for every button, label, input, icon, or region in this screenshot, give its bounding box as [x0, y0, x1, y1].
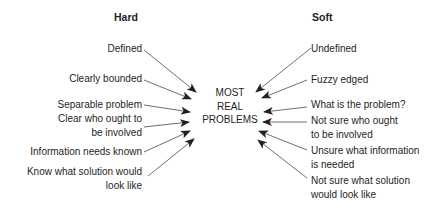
hard-item-know-solution: Know what solution would look like: [27, 165, 142, 192]
arrow-unsure-information: [259, 131, 307, 150]
hard-item-information-known: Information needs known: [30, 145, 142, 159]
arrow-clearly-bounded: [144, 80, 191, 99]
soft-heading: Soft: [312, 11, 332, 23]
center-label: MOST REAL PROBLEMS: [190, 86, 270, 127]
soft-item-what-problem: What is the problem?: [311, 98, 406, 112]
center-line-1: MOST: [190, 86, 270, 100]
hard-heading: Hard: [114, 11, 138, 23]
hard-item-clearly-bounded: Clearly bounded: [69, 72, 142, 86]
soft-item-not-sure-who: Not sure who ought to be involved: [311, 114, 398, 141]
hard-item-separable-problem: Separable problem: [58, 98, 143, 112]
arrow-clear-who: [144, 122, 189, 127]
hard-item-defined: Defined: [108, 42, 142, 56]
arrow-not-sure-solution: [258, 140, 307, 178]
arrow-what-problem: [264, 107, 307, 112]
hard-item-clear-who: Clear who ought to be involved: [58, 112, 142, 139]
soft-item-fuzzy-edged: Fuzzy edged: [311, 73, 368, 87]
arrow-information-known: [144, 131, 190, 152]
soft-item-not-sure-solution: Not sure what solution would look like: [311, 174, 410, 201]
arrow-defined: [144, 50, 196, 92]
center-line-2: REAL: [190, 100, 270, 114]
arrow-know-solution: [148, 139, 194, 176]
arrow-separable-problem: [144, 105, 190, 112]
center-line-3: PROBLEMS: [190, 113, 270, 127]
soft-item-unsure-information: Unsure what information is needed: [311, 144, 419, 171]
soft-item-undefined: Undefined: [311, 42, 357, 56]
